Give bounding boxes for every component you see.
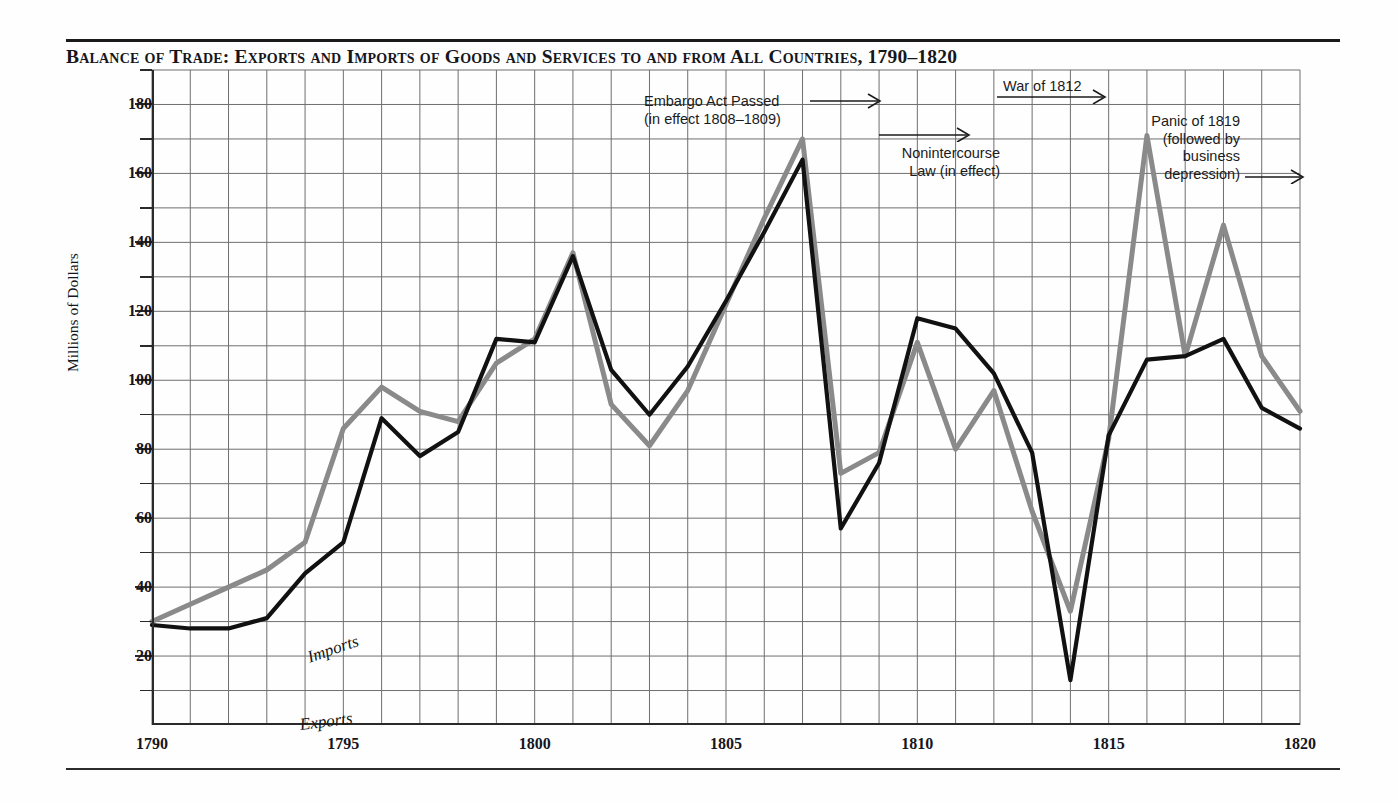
x-axis-tick-label: 1795 [327,735,359,753]
x-axis-tick-label: 1820 [1284,735,1316,753]
annotation-war-arrow [997,88,1115,104]
y-axis-tick-label: 120 [128,302,152,320]
annotation-embargo-act: Embargo Act Passed (in effect 1808–1809) [644,93,781,128]
y-tick-minor [140,414,152,416]
series-line-exports [152,160,1300,681]
x-axis-tick-label: 1815 [1093,735,1125,753]
y-axis-tick-label: 160 [128,164,152,182]
y-axis-tick-label: 40 [136,578,152,596]
chart-page: Balance of Trade: Exports and Imports of… [0,0,1398,802]
annotation-nonintercourse-law: Nonintercourse Law (in effect) [860,145,1000,180]
x-axis-tick-label: 1805 [710,735,742,753]
y-tick-minor [140,138,152,140]
y-tick-minor [140,345,152,347]
bottom-rule [66,768,1340,770]
y-axis-title: Millions of Dollars [64,253,82,372]
page-title: Balance of Trade: Exports and Imports of… [66,46,1356,68]
y-axis-tick-label: 80 [136,440,152,458]
y-tick-minor [140,69,152,71]
annotation-embargo-arrow [810,93,890,109]
y-tick-minor [140,552,152,554]
x-axis-tick-label: 1800 [519,735,551,753]
y-axis-tick-label: 20 [136,647,152,665]
y-tick-minor [140,207,152,209]
annotation-nonintercourse-arrow [879,126,979,142]
annotation-panic-of-1819: Panic of 1819 (followed by business depr… [1110,113,1240,183]
x-axis-tick-label: 1790 [136,735,168,753]
y-axis-tick-label: 180 [128,95,152,113]
y-axis-line [152,70,154,725]
top-rule [66,39,1340,42]
y-tick-minor [140,276,152,278]
y-axis-tick-label: 100 [128,371,152,389]
x-axis-tick-label: 1810 [901,735,933,753]
annotation-panic-arrow [1245,168,1313,184]
y-tick-minor [140,483,152,485]
y-tick-minor [140,621,152,623]
y-tick-minor [140,690,152,692]
y-axis-tick-label: 140 [128,233,152,251]
y-axis-tick-label: 60 [136,509,152,527]
series-line-imports [152,136,1300,622]
